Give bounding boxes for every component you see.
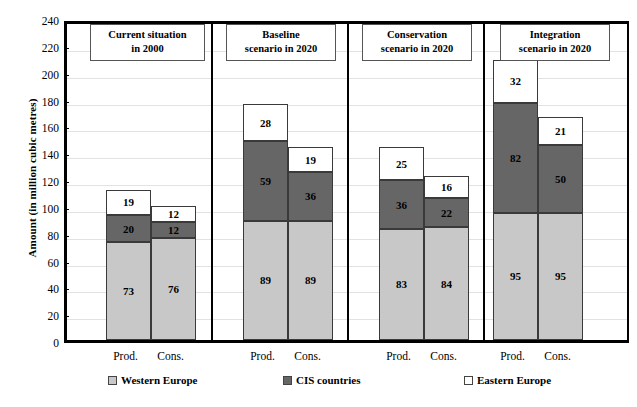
segment-value-label: 12: [168, 224, 179, 236]
panel-title-line2: scenario in 2020: [505, 42, 605, 56]
segment-value-label: 16: [441, 181, 452, 193]
segment-value-label: 89: [260, 274, 271, 286]
segment-western-europe[interactable]: 95: [493, 213, 538, 340]
y-tick-mark: [64, 316, 69, 317]
segment-western-europe[interactable]: 84: [424, 227, 469, 340]
y-tick-mark: [64, 155, 69, 156]
segment-western-europe[interactable]: 76: [151, 238, 196, 340]
y-tick-mark: [64, 263, 69, 264]
segment-western-europe[interactable]: 89: [243, 221, 288, 340]
segment-eastern-europe[interactable]: 19: [288, 147, 333, 172]
legend-label: Eastern Europe: [477, 374, 551, 386]
y-tick-mark: [64, 236, 69, 237]
x-tick-label: Cons.: [273, 350, 343, 362]
y-tick-label: 0: [19, 337, 59, 349]
panel-title-line1: Integration: [505, 28, 605, 42]
y-tick-label: 240: [19, 15, 59, 27]
legend-item-western-europe[interactable]: Western Europe: [108, 374, 198, 386]
x-tick-label: Cons.: [409, 350, 479, 362]
segment-value-label: 25: [396, 158, 407, 170]
panel-title-line2: scenario in 2020: [367, 42, 467, 56]
segment-value-label: 36: [305, 190, 316, 202]
segment-western-europe[interactable]: 73: [106, 242, 151, 340]
y-tick-mark: [64, 48, 69, 49]
segment-value-label: 76: [168, 283, 179, 295]
segment-western-europe[interactable]: 83: [379, 229, 424, 340]
segment-cis-countries[interactable]: 36: [379, 180, 424, 228]
segment-cis-countries[interactable]: 82: [493, 103, 538, 213]
y-tick-label: 120: [19, 176, 59, 188]
panel-title-line2: scenario in 2020: [231, 42, 331, 56]
stacked-bar-chart: Amount (in million cubic metres) 7320197…: [0, 0, 637, 407]
segment-eastern-europe[interactable]: 12: [151, 206, 196, 222]
x-tick-label: Cons.: [523, 350, 593, 362]
segment-value-label: 32: [510, 75, 521, 87]
segment-value-label: 36: [396, 199, 407, 211]
y-tick-label: 160: [19, 122, 59, 134]
panel-title-2: Conservationscenario in 2020: [362, 24, 472, 61]
segment-value-label: 19: [305, 154, 316, 166]
segment-eastern-europe[interactable]: 21: [538, 117, 583, 145]
y-tick-label: 220: [19, 42, 59, 54]
y-tick-label: 40: [19, 283, 59, 295]
y-tick-mark: [64, 128, 69, 129]
y-tick-mark: [64, 289, 69, 290]
segment-cis-countries[interactable]: 22: [424, 198, 469, 228]
y-tick-mark: [64, 102, 69, 103]
panel-title-line1: Conservation: [367, 28, 467, 42]
segment-cis-countries[interactable]: 12: [151, 222, 196, 238]
y-tick-label: 140: [19, 149, 59, 161]
y-tick-label: 180: [19, 96, 59, 108]
legend-swatch-icon: [464, 376, 473, 385]
segment-western-europe[interactable]: 95: [538, 213, 583, 340]
bar-cons-g1[interactable]: 893619: [288, 147, 333, 340]
chart-legend: Western EuropeCIS countriesEastern Europ…: [0, 374, 637, 394]
bar-cons-g0[interactable]: 761212: [151, 206, 196, 340]
panel-title-3: Integrationscenario in 2020: [500, 24, 610, 61]
y-tick-label: 80: [19, 230, 59, 242]
segment-eastern-europe[interactable]: 28: [243, 104, 288, 142]
bar-prod-g2[interactable]: 833625: [379, 147, 424, 340]
bar-prod-g1[interactable]: 895928: [243, 104, 288, 340]
segment-value-label: 19: [123, 196, 134, 208]
y-tick-label: 200: [19, 69, 59, 81]
legend-label: CIS countries: [296, 374, 360, 386]
segment-value-label: 28: [260, 117, 271, 129]
y-tick-label: 100: [19, 203, 59, 215]
y-tick-label: 60: [19, 257, 59, 269]
y-tick-label: 20: [19, 310, 59, 322]
panel-title-line1: Current situation: [95, 28, 200, 42]
segment-cis-countries[interactable]: 59: [243, 141, 288, 220]
legend-item-cis-countries[interactable]: CIS countries: [283, 374, 360, 386]
panel-divider: [483, 21, 485, 343]
legend-swatch-icon: [283, 376, 292, 385]
bar-prod-g3[interactable]: 958232: [493, 60, 538, 340]
segment-value-label: 95: [555, 270, 566, 282]
legend-label: Western Europe: [121, 374, 198, 386]
segment-eastern-europe[interactable]: 16: [424, 176, 469, 197]
segment-value-label: 84: [441, 278, 452, 290]
bar-cons-g2[interactable]: 842216: [424, 176, 469, 340]
panel-divider: [347, 21, 349, 343]
panel-title-1: Baselinescenario in 2020: [226, 24, 336, 61]
y-tick-mark: [64, 209, 69, 210]
bar-prod-g0[interactable]: 732019: [106, 190, 151, 340]
segment-eastern-europe[interactable]: 32: [493, 60, 538, 103]
segment-western-europe[interactable]: 89: [288, 221, 333, 340]
segment-eastern-europe[interactable]: 25: [379, 147, 424, 181]
y-tick-mark: [64, 75, 69, 76]
segment-cis-countries[interactable]: 20: [106, 215, 151, 242]
segment-value-label: 83: [396, 278, 407, 290]
segment-eastern-europe[interactable]: 19: [106, 190, 151, 215]
segment-cis-countries[interactable]: 50: [538, 145, 583, 212]
segment-value-label: 12: [168, 208, 179, 220]
segment-value-label: 82: [510, 152, 521, 164]
legend-item-eastern-europe[interactable]: Eastern Europe: [464, 374, 551, 386]
panel-title-line2: in 2000: [95, 42, 200, 56]
segment-value-label: 89: [305, 274, 316, 286]
segment-cis-countries[interactable]: 36: [288, 172, 333, 220]
bar-cons-g3[interactable]: 955021: [538, 117, 583, 340]
segment-value-label: 73: [123, 285, 134, 297]
panel-title-0: Current situationin 2000: [90, 24, 205, 61]
panel-title-line1: Baseline: [231, 28, 331, 42]
